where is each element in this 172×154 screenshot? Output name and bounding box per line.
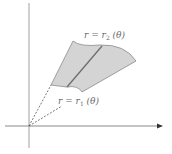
dashed-ray-upper — [29, 85, 51, 126]
outer-curve-label: r = r2 (θ) — [84, 30, 126, 41]
x-axis-arrowhead-icon — [157, 124, 163, 129]
polar-region-diagram: r = r2 (θ) r = r1 (θ) — [0, 0, 172, 154]
inner-curve-label: r = r1 (θ) — [58, 96, 100, 107]
shaded-region — [51, 41, 136, 92]
